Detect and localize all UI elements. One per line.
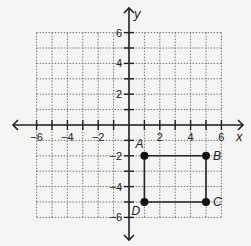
point-label-b: B bbox=[213, 149, 221, 163]
x-tick-label: 2 bbox=[157, 131, 163, 143]
y-tick-label: −4 bbox=[109, 181, 122, 193]
point-a bbox=[140, 152, 148, 160]
x-tick-label: 4 bbox=[188, 131, 194, 143]
x-tick-label: −6 bbox=[30, 131, 43, 143]
coordinate-plane: −6−4−2246642−2−4−6 ABCD x y bbox=[0, 0, 251, 246]
point-c bbox=[202, 198, 210, 206]
x-tick-label: −4 bbox=[61, 131, 74, 143]
y-tick-label: −6 bbox=[109, 211, 122, 223]
x-tick-label: 6 bbox=[218, 131, 224, 143]
point-b bbox=[202, 152, 210, 160]
x-axis-label: x bbox=[235, 129, 243, 144]
y-tick-label: 4 bbox=[116, 57, 122, 69]
y-axis-label: y bbox=[133, 6, 142, 21]
y-tick-label: 2 bbox=[116, 88, 122, 100]
y-tick-label: −2 bbox=[109, 150, 122, 162]
axes bbox=[13, 8, 243, 240]
point-label-d: D bbox=[131, 204, 140, 218]
y-tick-label: 6 bbox=[116, 27, 122, 39]
x-tick-label: −2 bbox=[92, 131, 105, 143]
point-label-c: C bbox=[213, 195, 222, 209]
point-label-a: A bbox=[134, 137, 143, 151]
point-d bbox=[140, 198, 148, 206]
